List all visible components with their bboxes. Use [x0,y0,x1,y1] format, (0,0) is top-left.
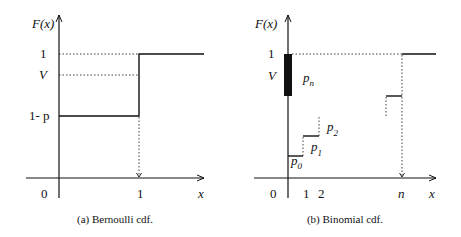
y-axis-label: F(x) [31,16,54,31]
label-p1: p1 [310,139,322,158]
cdf-step [59,54,204,116]
label-pn: pn [302,70,315,88]
x-tick-0: 0 [41,186,48,201]
x-tick-2: 2 [318,186,325,201]
y-tick-v: V [268,68,278,83]
binomial-cdf-plot: F(x) 1 V pn p0 p1 p2 0 1 2 n x (b) Binom… [254,15,436,226]
y-tick-1-minus-p: 1- p [29,108,50,123]
y-tick-1: 1 [40,46,47,61]
y-axis-label: F(x) [254,16,277,31]
bernoulli-cdf-plot: F(x) 1 V 1- p 0 1 x (a) Bernoulli cdf. [26,15,204,226]
x-axis-label: x [197,186,204,201]
x-tick-0: 0 [270,186,277,201]
label-p2: p2 [326,119,339,138]
caption-b: (b) Binomial cdf. [307,213,383,226]
pn-bar [284,54,292,96]
y-tick-1: 1 [268,46,275,61]
x-tick-1: 1 [303,186,310,201]
x-axis-label: x [428,186,435,201]
x-tick-1: 1 [137,186,144,201]
y-tick-v: V [39,67,49,82]
caption-a: (a) Bernoulli cdf. [77,213,153,226]
cdf-figure: F(x) 1 V 1- p 0 1 x (a) Bernoulli cdf. F… [0,0,461,237]
x-tick-n: n [398,186,405,201]
